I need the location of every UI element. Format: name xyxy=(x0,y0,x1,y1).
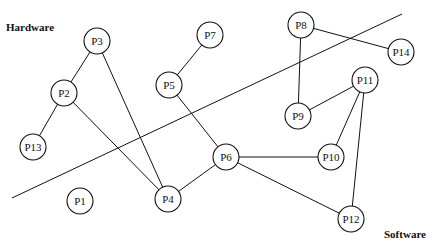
node-label: P6 xyxy=(220,151,232,163)
software-region-label: Software xyxy=(384,228,426,240)
edge-p8-p14 xyxy=(301,25,401,52)
node-label: P7 xyxy=(204,29,216,41)
node-p2: P2 xyxy=(51,80,77,106)
node-p6: P6 xyxy=(213,144,239,170)
process-partition-diagram: P1P2P3P4P5P6P7P8P9P10P11P12P13P14 Hardwa… xyxy=(0,0,435,246)
node-p9: P9 xyxy=(285,103,311,129)
node-label: P4 xyxy=(162,193,174,205)
node-label: P10 xyxy=(322,151,340,163)
edge-p2-p4 xyxy=(64,93,168,199)
node-p12: P12 xyxy=(338,206,364,232)
node-p7: P7 xyxy=(197,22,223,48)
node-label: P3 xyxy=(91,35,103,47)
node-p10: P10 xyxy=(318,144,344,170)
node-label: P5 xyxy=(163,79,175,91)
node-p3: P3 xyxy=(84,28,110,54)
node-p14: P14 xyxy=(388,39,414,65)
node-p4: P4 xyxy=(155,186,181,212)
node-label: P13 xyxy=(24,141,42,153)
node-label: P14 xyxy=(392,46,410,58)
node-p8: P8 xyxy=(288,12,314,38)
hardware-region-label: Hardware xyxy=(6,21,54,33)
edges-layer xyxy=(33,25,401,219)
edge-p8-p9 xyxy=(298,25,301,116)
node-label: P11 xyxy=(357,74,374,86)
edge-p3-p4 xyxy=(97,41,168,199)
node-label: P8 xyxy=(295,19,307,31)
node-label: P1 xyxy=(74,195,86,207)
node-p1: P1 xyxy=(67,188,93,214)
node-label: P2 xyxy=(58,87,70,99)
nodes-layer: P1P2P3P4P5P6P7P8P9P10P11P12P13P14 xyxy=(20,12,414,232)
node-label: P12 xyxy=(342,213,359,225)
node-p13: P13 xyxy=(20,134,46,160)
edge-p11-p12 xyxy=(351,80,365,219)
node-p5: P5 xyxy=(156,72,182,98)
node-label: P9 xyxy=(292,110,304,122)
edge-p5-p6 xyxy=(169,85,226,157)
node-p11: P11 xyxy=(352,67,378,93)
